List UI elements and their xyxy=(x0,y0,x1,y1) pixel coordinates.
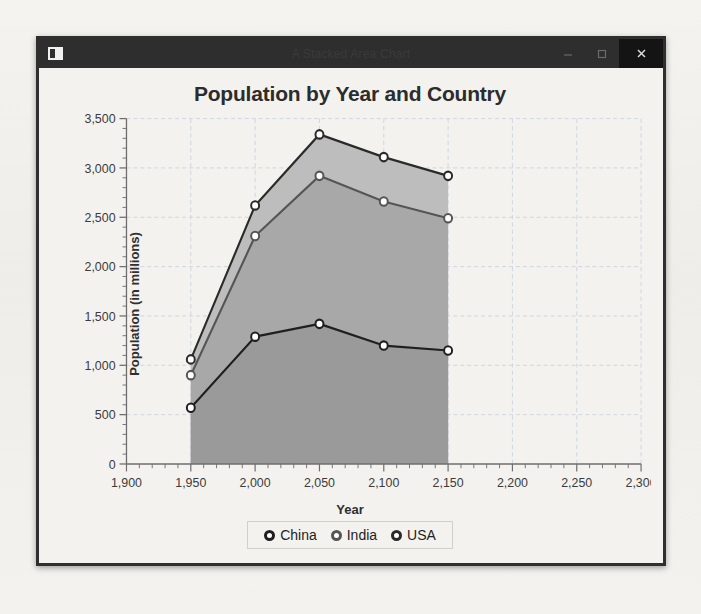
svg-text:2,000: 2,000 xyxy=(240,475,271,490)
svg-text:2,250: 2,250 xyxy=(561,475,592,490)
area-series-group xyxy=(191,134,448,464)
maximize-button[interactable] xyxy=(585,39,619,68)
legend-item-usa[interactable]: USA xyxy=(391,527,436,543)
y-axis-tick-labels: 05001,0001,5002,0002,5003,0003,500 xyxy=(84,111,115,472)
legend-label: China xyxy=(280,527,317,543)
window-body: Population by Year and Country 05001,000… xyxy=(39,68,663,563)
svg-text:1,950: 1,950 xyxy=(175,475,206,490)
chart-plot-region: 05001,0001,5002,0002,5003,0003,500 1,900… xyxy=(49,108,651,500)
x-axis-title: Year xyxy=(49,502,651,517)
svg-text:2,200: 2,200 xyxy=(497,475,528,490)
svg-text:2,100: 2,100 xyxy=(368,475,399,490)
svg-text:2,500: 2,500 xyxy=(84,210,115,225)
svg-text:2,050: 2,050 xyxy=(304,475,335,490)
chart-title: Population by Year and Country xyxy=(49,82,651,106)
svg-text:2,300: 2,300 xyxy=(626,475,651,490)
circle-marker-icon xyxy=(331,530,342,541)
x-axis-tick-labels: 1,9001,9502,0002,0502,1002,1502,2002,250… xyxy=(111,475,651,490)
y-axis-title: Population (in millions) xyxy=(127,232,142,376)
svg-text:3,000: 3,000 xyxy=(84,160,115,175)
svg-text:3,500: 3,500 xyxy=(84,111,115,126)
legend-item-china[interactable]: China xyxy=(264,527,317,543)
svg-text:1,900: 1,900 xyxy=(111,475,142,490)
svg-text:1,500: 1,500 xyxy=(84,308,115,323)
application-window: A Stacked Area Chart Population by Year … xyxy=(36,36,666,566)
circle-marker-icon xyxy=(264,530,275,541)
chart-legend: China India USA xyxy=(247,521,453,549)
window-controls xyxy=(551,39,663,68)
svg-text:0: 0 xyxy=(109,456,116,471)
legend-item-india[interactable]: India xyxy=(331,527,377,543)
close-button[interactable] xyxy=(619,39,663,68)
title-bar[interactable]: A Stacked Area Chart xyxy=(39,39,663,68)
svg-text:500: 500 xyxy=(95,407,116,422)
svg-text:2,000: 2,000 xyxy=(84,259,115,274)
legend-label: USA xyxy=(407,527,436,543)
svg-text:2,150: 2,150 xyxy=(433,475,464,490)
minimize-button[interactable] xyxy=(551,39,585,68)
svg-text:1,000: 1,000 xyxy=(84,358,115,373)
app-window-icon xyxy=(48,47,63,60)
circle-marker-icon xyxy=(391,530,402,541)
legend-label: India xyxy=(347,527,377,543)
